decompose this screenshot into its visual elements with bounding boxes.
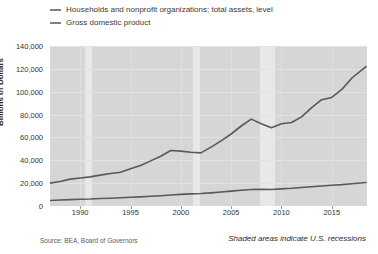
legend-item-households[interactable]: Households and nonprofit organizations; … [50,4,273,16]
x-tick-label: 2015 [323,208,340,217]
plot-area [50,46,367,206]
x-tick-label: 1995 [122,208,139,217]
chart-container: Households and nonprofit organizations; … [0,0,378,254]
x-tick-label: 1990 [72,208,89,217]
x-tick-mark [281,206,282,209]
x-tick-label: 2005 [223,208,240,217]
y-tick-label: 40,000 [20,156,43,165]
y-tick-label: 120,000 [16,64,43,73]
chart-legend: Households and nonprofit organizations; … [50,4,273,30]
y-tick-label: 100,000 [16,87,43,96]
y-tick-label: 60,000 [20,133,43,142]
x-tick-mark [181,206,182,209]
legend-item-gdp[interactable]: Gross domestic product [50,17,273,29]
legend-label-households: Households and nonprofit organizations; … [66,4,273,16]
legend-swatch-households [50,9,61,11]
y-tick-label: 80,000 [20,110,43,119]
y-tick-label: 20,000 [20,179,43,188]
legend-label-gdp: Gross domestic product [66,17,150,29]
series-line-2 [50,183,366,201]
recession-note: Shaded areas indicate U.S. recessions [228,234,366,243]
legend-swatch-gdp [50,22,61,24]
source-note: Source: BEA, Board of Governors [40,237,138,244]
x-tick-label: 2000 [172,208,189,217]
x-tick-mark [332,206,333,209]
series-lines [50,46,367,206]
x-tick-mark [231,206,232,209]
x-tick-mark [131,206,132,209]
y-tick-label: 0 [39,202,43,211]
x-tick-label: 2010 [273,208,290,217]
y-axis-labels: 020,00040,00060,00080,000100,000120,0001… [0,46,46,206]
series-line-1 [50,67,366,184]
x-axis-labels: 199019952000200520102015 [50,208,367,222]
x-tick-mark [80,206,81,209]
y-tick-label: 140,000 [16,42,43,51]
